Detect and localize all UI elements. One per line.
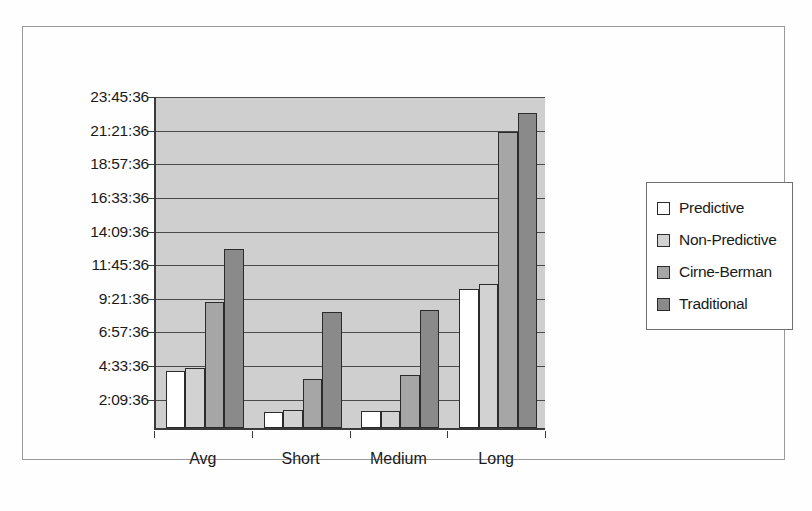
y-axis-tick (147, 232, 154, 233)
y-axis-tick (147, 198, 154, 199)
x-axis-tick (447, 431, 448, 438)
legend-item-label: Predictive (679, 199, 744, 217)
y-axis-tick-labels: 2:09:364:33:366:57:369:21:3611:45:3614:0… (53, 27, 149, 511)
x-axis-label-avg: Avg (154, 451, 252, 467)
bar-medium-cirne-berman (400, 375, 420, 428)
legend-item-label: Non-Predictive (679, 231, 776, 249)
x-axis-label-long: Long (447, 451, 545, 467)
legend-item-traditional[interactable]: Traditional (657, 288, 784, 320)
bar-long-non-predictive (479, 284, 499, 428)
y-axis-tick (147, 131, 154, 132)
legend-swatch-icon (657, 298, 670, 311)
x-axis-tick (545, 431, 546, 438)
bar-avg-non-predictive (185, 368, 205, 428)
legend-item-label: Cirne-Berman (679, 263, 772, 281)
y-axis-tick-label: 23:45:36 (90, 89, 149, 105)
y-axis-tick-label: 6:57:36 (99, 324, 149, 340)
y-axis-tick (147, 366, 154, 367)
gridline (156, 265, 545, 266)
y-axis-tick-label: 9:21:36 (99, 291, 149, 307)
legend-swatch-icon (657, 266, 670, 279)
chart-page: 2:09:364:33:366:57:369:21:3611:45:3614:0… (0, 0, 812, 511)
y-axis-tick (147, 265, 154, 266)
bar-long-traditional (518, 113, 538, 428)
bar-medium-predictive (361, 411, 381, 428)
x-axis-tick (154, 431, 155, 438)
chart-legend: PredictiveNon-PredictiveCirne-BermanTrad… (646, 182, 793, 330)
legend-swatch-icon (657, 202, 670, 215)
legend-swatch-icon (657, 234, 670, 247)
y-axis-tick-label: 11:45:36 (91, 257, 149, 273)
bar-avg-predictive (166, 371, 186, 428)
bar-long-cirne-berman (498, 132, 518, 428)
y-axis-tick (147, 332, 154, 333)
x-axis-tick (350, 431, 351, 438)
bar-short-traditional (322, 312, 342, 428)
x-axis-label-medium: Medium (350, 451, 448, 467)
legend-item-label: Traditional (679, 295, 748, 313)
y-axis-tick-label: 14:09:36 (90, 224, 149, 240)
y-axis-tick-label: 18:57:36 (90, 156, 149, 172)
bar-medium-traditional (420, 310, 440, 428)
bar-medium-non-predictive (381, 411, 401, 428)
bar-short-non-predictive (283, 410, 303, 428)
gridline (156, 97, 545, 98)
gridline (156, 164, 545, 165)
y-axis-tick (147, 299, 154, 300)
bar-avg-cirne-berman (205, 302, 225, 428)
figure-frame: 2:09:364:33:366:57:369:21:3611:45:3614:0… (22, 26, 785, 460)
plot-area (154, 97, 545, 430)
bar-short-cirne-berman (303, 379, 323, 428)
y-axis-tick (147, 164, 154, 165)
y-axis-tick (147, 97, 154, 98)
y-axis-tick-label: 16:33:36 (90, 190, 149, 206)
gridline (156, 198, 545, 199)
y-axis-tick (147, 400, 154, 401)
gridline (156, 131, 545, 132)
bar-long-predictive (459, 289, 479, 428)
y-axis-tick-label: 2:09:36 (99, 392, 149, 408)
bar-avg-traditional (224, 249, 244, 428)
x-axis-label-short: Short (252, 451, 350, 467)
legend-item-cirne-berman[interactable]: Cirne-Berman (657, 256, 784, 288)
legend-item-predictive[interactable]: Predictive (657, 192, 784, 224)
y-axis-tick-label: 4:33:36 (99, 358, 149, 374)
legend-item-non-predictive[interactable]: Non-Predictive (657, 224, 784, 256)
bar-short-predictive (264, 412, 284, 428)
y-axis-tick-label: 21:21:36 (90, 123, 149, 139)
gridline (156, 232, 545, 233)
x-axis-tick (252, 431, 253, 438)
